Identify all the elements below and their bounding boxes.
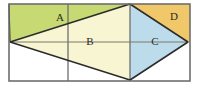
region-label-a: A [56, 11, 64, 23]
region-label-c: C [151, 35, 158, 47]
geometry-diagram-svg: A B C D [0, 0, 200, 86]
geometry-figure: A B C D [0, 0, 200, 86]
region-label-d: D [170, 10, 178, 22]
region-label-b: B [86, 35, 93, 47]
